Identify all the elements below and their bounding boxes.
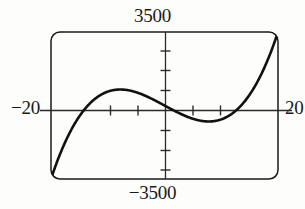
calculator-graph-screen: 3500 −3500 −20 20 — [0, 0, 305, 209]
plot-area — [0, 0, 305, 209]
function-curve — [51, 32, 278, 179]
